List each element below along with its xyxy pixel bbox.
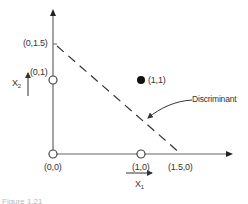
- label-1-5-0: (1.5,0): [168, 162, 193, 172]
- label-1-1: (1,1): [148, 75, 166, 85]
- figure-caption: Figure 1.21: [2, 197, 42, 204]
- x-axis-arrow-icon: [226, 151, 233, 157]
- discriminant-callout-arrow: [148, 100, 192, 118]
- axis-label-x1-sub: 1: [141, 184, 144, 190]
- point-0-1: [49, 76, 57, 84]
- label-0-0: (0,0): [44, 162, 62, 172]
- axis-label-x2: X2: [12, 78, 21, 89]
- y-axis-arrow-icon: [50, 9, 56, 16]
- point-0-0: [49, 150, 57, 158]
- axis-label-x2-sub: 2: [18, 83, 21, 89]
- axis-label-x1: X1: [135, 179, 144, 190]
- label-0-1-5: (0,1.5): [23, 38, 48, 48]
- label-0-1: (0,1): [30, 67, 48, 77]
- label-discriminant: Discriminant: [192, 94, 236, 104]
- point-1-0: [137, 150, 145, 158]
- discriminant-line: [57, 46, 181, 154]
- point-1-1: [137, 76, 145, 84]
- label-1-0: (1,0): [132, 162, 150, 172]
